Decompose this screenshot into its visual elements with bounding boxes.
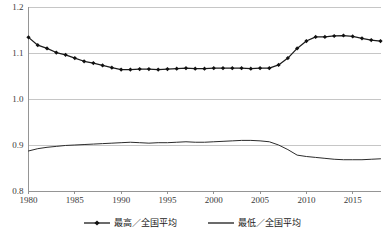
data-point-marker bbox=[82, 59, 86, 63]
data-point-marker bbox=[119, 67, 123, 71]
data-point-marker bbox=[138, 67, 142, 71]
x-axis-tick-labels: 19801985199019952000200520102015 bbox=[20, 191, 363, 205]
data-point-marker bbox=[147, 67, 151, 71]
series-line-highest bbox=[29, 36, 381, 70]
line-chart: 0.80.91.01.11.2 198019851990199520002005… bbox=[0, 0, 389, 237]
x-tick-label: 2005 bbox=[251, 195, 270, 205]
data-point-marker bbox=[128, 67, 132, 71]
data-point-marker bbox=[267, 66, 271, 70]
x-tick-label: 1995 bbox=[158, 195, 177, 205]
data-point-marker bbox=[360, 36, 364, 40]
x-tick-label: 1985 bbox=[66, 195, 85, 205]
data-point-marker bbox=[184, 66, 188, 70]
y-tick-label: 1.2 bbox=[12, 2, 23, 12]
y-tick-label: 1.1 bbox=[12, 48, 23, 58]
data-point-marker bbox=[323, 35, 327, 39]
data-point-marker bbox=[249, 67, 253, 71]
data-point-marker bbox=[73, 56, 77, 60]
data-point-marker bbox=[101, 63, 105, 67]
data-point-marker bbox=[314, 35, 318, 39]
data-point-marker bbox=[369, 38, 373, 42]
chart-legend: 最高／全国平均最低／全国平均 bbox=[84, 217, 301, 228]
legend-label: 最低／全国平均 bbox=[238, 217, 301, 228]
data-point-marker bbox=[221, 66, 225, 70]
legend-label: 最高／全国平均 bbox=[114, 217, 177, 228]
legend-marker-diamond bbox=[94, 220, 99, 225]
y-tick-label: 0.9 bbox=[12, 140, 24, 150]
y-tick-label: 1.0 bbox=[12, 94, 24, 104]
data-point-marker bbox=[212, 66, 216, 70]
y-axis-tick-labels: 0.80.91.01.11.2 bbox=[12, 2, 24, 196]
x-tick-label: 2015 bbox=[344, 195, 363, 205]
chart-container: 0.80.91.01.11.2 198019851990199520002005… bbox=[0, 0, 389, 237]
data-point-marker bbox=[156, 67, 160, 71]
data-point-marker bbox=[165, 67, 169, 71]
gridlines-group bbox=[29, 7, 381, 145]
series-layer bbox=[26, 33, 382, 159]
data-point-marker bbox=[239, 66, 243, 70]
data-point-marker bbox=[341, 33, 345, 37]
data-point-marker bbox=[258, 66, 262, 70]
data-point-marker bbox=[175, 67, 179, 71]
x-tick-label: 1990 bbox=[112, 195, 131, 205]
data-point-marker bbox=[230, 66, 234, 70]
data-point-marker bbox=[332, 34, 336, 38]
data-point-marker bbox=[351, 34, 355, 38]
data-point-marker bbox=[378, 39, 382, 43]
data-point-marker bbox=[202, 67, 206, 71]
x-tick-label: 1980 bbox=[20, 195, 39, 205]
data-point-marker bbox=[54, 50, 58, 54]
data-point-marker bbox=[193, 67, 197, 71]
data-point-marker bbox=[45, 46, 49, 50]
x-tick-label: 2010 bbox=[297, 195, 316, 205]
series-line-lowest bbox=[29, 140, 381, 159]
data-point-marker bbox=[91, 61, 95, 65]
x-tick-label: 2000 bbox=[205, 195, 224, 205]
data-point-marker bbox=[110, 66, 114, 70]
